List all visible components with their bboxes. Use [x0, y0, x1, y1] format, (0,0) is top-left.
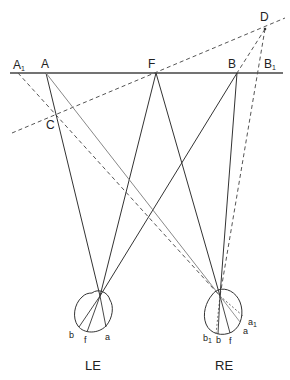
label-left-eye: LE — [85, 359, 101, 372]
le-ray-a — [100, 296, 106, 327]
re-ray-a — [220, 296, 240, 322]
le-ray-b — [79, 296, 100, 327]
label-d: D — [260, 11, 269, 23]
re-ray-a1 — [220, 296, 243, 316]
re-label-a: a — [243, 327, 248, 336]
line-b-re — [220, 73, 237, 296]
right-eye-outline — [204, 289, 242, 334]
le-ray-f — [87, 296, 100, 332]
le-label-f: f — [84, 336, 87, 345]
line-f-le — [100, 73, 156, 296]
line-a-re — [46, 73, 220, 296]
label-f: F — [148, 58, 155, 70]
line-f-re — [156, 73, 220, 296]
dashed-line-a1-re — [18, 73, 220, 296]
re-label-a1: a1 — [248, 318, 257, 328]
re-label-b: b — [216, 336, 221, 345]
dashed-line-c-d — [12, 18, 285, 133]
label-right-eye: RE — [215, 359, 233, 372]
re-label-f: f — [229, 337, 232, 346]
label-b: B — [228, 58, 236, 70]
re-ray-f — [220, 296, 230, 333]
dashed-line-d-re — [220, 29, 265, 296]
le-label-a: a — [105, 333, 110, 342]
label-a: A — [41, 58, 49, 70]
line-b-le — [100, 73, 237, 296]
point-d-marker — [264, 28, 267, 31]
re-label-b1: b1 — [203, 334, 212, 344]
le-label-b: b — [69, 331, 74, 340]
label-a1: A1 — [13, 59, 25, 72]
line-a-le — [46, 73, 100, 296]
label-c: C — [46, 119, 55, 131]
label-b1: B1 — [264, 58, 276, 71]
